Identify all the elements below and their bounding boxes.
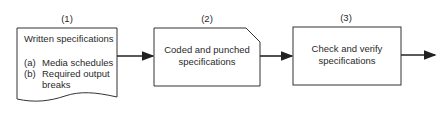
step-3-line-1: Check and verify	[293, 43, 401, 54]
step-1-item-b-text: Required output	[42, 68, 110, 79]
step-2-line-2: specifications	[154, 56, 260, 67]
step-2-line-1: Coded and punched	[154, 44, 260, 55]
step-3-line-2: specifications	[293, 55, 401, 66]
step-1-title: Written specifications	[24, 33, 114, 44]
step-2-number: (2)	[192, 13, 222, 24]
step-1-item-b-marker: (b)	[24, 68, 36, 79]
step-3-number: (3)	[331, 12, 361, 23]
step-1-item-a-marker: (a)	[24, 57, 36, 68]
step-1-item-b-text-cont: breaks	[42, 79, 71, 90]
step-1-item-a-text: Media schedules	[42, 57, 113, 68]
step-1-number: (1)	[52, 13, 82, 24]
